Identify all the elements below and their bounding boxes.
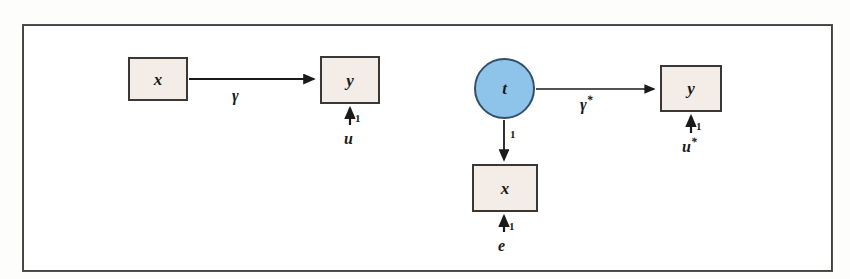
node-x-right[interactable]: x <box>472 164 538 212</box>
edge-label-gamma-star: γ* <box>580 97 592 113</box>
edge-label-gamma-star-base: γ <box>580 96 587 113</box>
node-ustar-right-label-base: u <box>682 138 691 155</box>
node-u-left-label: u <box>344 131 353 147</box>
node-y-right[interactable]: y <box>660 65 722 112</box>
figure-root: x y γ 1 u t x y γ* 1 1 e 1 u* <box>0 0 850 279</box>
node-y-left[interactable]: y <box>320 56 380 104</box>
node-t-right-label: t <box>502 80 507 97</box>
node-t-right[interactable]: t <box>474 58 535 119</box>
node-ustar-right-label-superscript: * <box>691 136 697 148</box>
edge-label-one-ustar: 1 <box>696 121 702 132</box>
node-e-right-label: e <box>498 238 505 254</box>
edge-label-one-t-to-x: 1 <box>510 129 516 140</box>
edge-label-gamma-star-superscript: * <box>587 94 593 106</box>
edge-label-one-u-left: 1 <box>355 113 361 124</box>
connector-layer <box>0 0 850 279</box>
node-x-right-label: x <box>501 180 510 197</box>
node-x-left[interactable]: x <box>128 57 188 101</box>
edge-label-one-e: 1 <box>509 221 515 232</box>
node-ustar-right-label: u* <box>682 139 697 155</box>
node-x-left-label: x <box>154 71 163 88</box>
node-y-right-label: y <box>687 80 695 97</box>
node-y-left-label: y <box>346 72 354 89</box>
edge-label-gamma: γ <box>232 88 239 104</box>
